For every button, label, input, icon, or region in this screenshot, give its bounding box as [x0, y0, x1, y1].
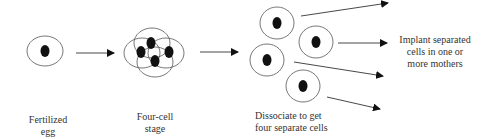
- four-cell-embryo: [124, 28, 184, 77]
- four-cell-nuclei: [137, 37, 174, 67]
- label-dissociate: Dissociate to get four separate cells: [255, 110, 365, 134]
- label-line: egg: [18, 126, 78, 138]
- embryo-splitting-diagram: Fertilized egg Four-cell stage Dissociat…: [0, 0, 487, 139]
- label-line: Fertilized: [18, 114, 78, 126]
- separated-cells: [250, 7, 333, 102]
- label-line: Four-cell: [125, 111, 185, 123]
- label-line: Dissociate to get: [255, 110, 365, 122]
- label-line: stage: [125, 123, 185, 135]
- label-line: more mothers: [392, 58, 478, 70]
- label-fertilized-egg: Fertilized egg: [18, 114, 78, 138]
- label-implant: Implant separated cells in one or more m…: [392, 34, 478, 70]
- label-line: Implant separated: [392, 34, 478, 46]
- label-line: four separate cells: [255, 122, 365, 134]
- label-line: cells in one or: [392, 46, 478, 58]
- label-four-cell: Four-cell stage: [125, 111, 185, 135]
- fertilized-egg-cell: [27, 36, 63, 66]
